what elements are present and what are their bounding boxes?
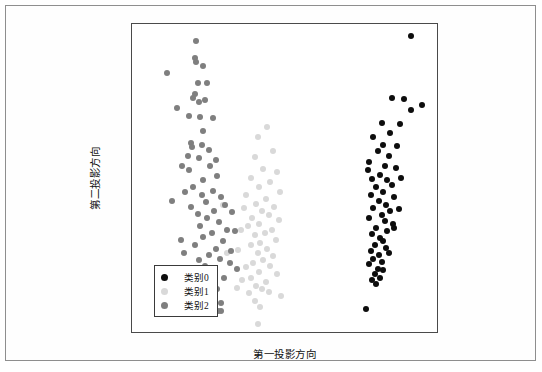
data-point bbox=[370, 256, 376, 262]
data-point bbox=[398, 175, 404, 181]
data-point bbox=[369, 176, 375, 182]
data-point bbox=[241, 205, 247, 211]
data-point bbox=[382, 218, 388, 224]
data-point bbox=[195, 211, 201, 217]
data-point bbox=[384, 228, 390, 234]
data-point bbox=[206, 147, 212, 153]
data-point bbox=[274, 271, 280, 277]
data-point bbox=[386, 250, 392, 256]
data-point bbox=[256, 184, 262, 190]
scatter-plot-area: -10.0-7.5-5.0-2.50.02.55.07.510.0 -2-101… bbox=[131, 23, 438, 333]
data-point bbox=[227, 260, 233, 266]
data-point bbox=[377, 275, 383, 281]
data-point bbox=[202, 97, 208, 103]
legend-item-label: 类别0 bbox=[184, 270, 209, 284]
data-point bbox=[189, 144, 195, 150]
data-point bbox=[188, 204, 194, 210]
legend: 类别0类别1类别2 bbox=[154, 265, 218, 317]
data-point bbox=[270, 148, 276, 154]
data-point bbox=[387, 208, 393, 214]
data-point bbox=[255, 250, 261, 256]
data-point bbox=[266, 289, 272, 295]
data-point bbox=[271, 204, 277, 210]
data-point bbox=[197, 223, 203, 229]
data-point bbox=[220, 238, 226, 244]
data-point bbox=[393, 165, 399, 171]
data-point bbox=[276, 217, 282, 223]
data-point bbox=[370, 134, 376, 140]
x-axis-title: 第一投影方向 bbox=[131, 346, 438, 361]
data-point bbox=[376, 198, 382, 204]
data-point bbox=[228, 248, 234, 254]
data-point bbox=[199, 142, 205, 148]
data-point bbox=[213, 157, 219, 163]
legend-item-label: 类别2 bbox=[184, 298, 209, 312]
data-point bbox=[267, 179, 273, 185]
data-point bbox=[243, 192, 249, 198]
data-point bbox=[216, 219, 222, 225]
data-point bbox=[218, 194, 224, 200]
data-point bbox=[263, 279, 269, 285]
data-point bbox=[174, 105, 180, 111]
data-point bbox=[246, 290, 252, 296]
data-point bbox=[213, 246, 219, 252]
legend-item: 类别1 bbox=[161, 284, 209, 298]
data-point bbox=[200, 234, 206, 240]
data-point bbox=[377, 172, 383, 178]
data-point bbox=[186, 167, 192, 173]
data-point bbox=[373, 184, 379, 190]
data-point bbox=[380, 238, 386, 244]
data-point bbox=[211, 208, 217, 214]
data-point bbox=[245, 223, 251, 229]
data-point bbox=[257, 304, 263, 310]
data-point bbox=[169, 198, 175, 204]
figure-frame: -10.0-7.5-5.0-2.50.02.55.07.510.0 -2-101… bbox=[5, 5, 536, 361]
data-point bbox=[386, 153, 392, 159]
data-point bbox=[255, 134, 261, 140]
y-tick-mark bbox=[131, 82, 132, 83]
data-point bbox=[222, 202, 228, 208]
data-point bbox=[373, 225, 379, 231]
data-point bbox=[373, 281, 379, 287]
data-point bbox=[273, 237, 279, 243]
legend-marker-icon bbox=[161, 288, 168, 295]
data-point bbox=[193, 59, 199, 65]
data-point bbox=[218, 300, 224, 306]
data-point bbox=[252, 232, 258, 238]
data-point bbox=[260, 166, 266, 172]
data-point bbox=[259, 208, 265, 214]
data-point bbox=[264, 124, 270, 130]
data-point bbox=[264, 246, 270, 252]
data-point bbox=[232, 228, 238, 234]
data-point bbox=[396, 206, 402, 212]
data-point bbox=[181, 250, 187, 256]
data-point bbox=[253, 201, 259, 207]
data-point bbox=[391, 194, 397, 200]
data-point bbox=[192, 242, 198, 248]
data-point bbox=[204, 80, 210, 86]
data-point bbox=[278, 293, 284, 299]
y-tick-mark bbox=[131, 24, 132, 25]
data-point bbox=[229, 209, 235, 215]
data-point bbox=[380, 189, 386, 195]
data-point bbox=[179, 163, 185, 169]
y-axis-title: 第二投影方向 bbox=[87, 147, 102, 210]
data-point bbox=[387, 130, 393, 136]
legend-item-label: 类别1 bbox=[184, 284, 209, 298]
data-point bbox=[394, 143, 400, 149]
data-point bbox=[243, 264, 249, 270]
data-point bbox=[210, 115, 216, 121]
data-point bbox=[419, 102, 425, 108]
data-point bbox=[365, 167, 371, 173]
data-point bbox=[200, 128, 206, 134]
data-point bbox=[391, 225, 397, 231]
data-point bbox=[372, 242, 378, 248]
data-point bbox=[370, 205, 376, 211]
data-point bbox=[262, 230, 268, 236]
data-point bbox=[252, 154, 258, 160]
data-point bbox=[200, 177, 206, 183]
y-tick-mark bbox=[131, 140, 132, 141]
legend-item: 类别0 bbox=[161, 270, 209, 284]
data-point bbox=[263, 196, 269, 202]
data-point bbox=[196, 257, 202, 263]
